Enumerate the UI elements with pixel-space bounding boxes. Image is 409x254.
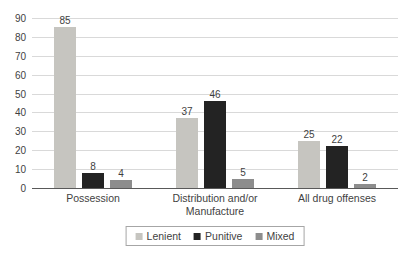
bar-value-label: 25: [303, 129, 314, 140]
bar-lenient: [298, 141, 320, 188]
y-tick-label: 40: [15, 107, 26, 118]
bar-value-label: 5: [240, 167, 246, 178]
bar-lenient: [54, 27, 76, 188]
bar-value-label: 46: [209, 89, 220, 100]
bar-with-label: 8: [82, 161, 104, 188]
bar-value-label: 85: [59, 15, 70, 26]
bar-value-label: 22: [331, 134, 342, 145]
legend-item-mixed: Mixed: [255, 230, 294, 242]
plot-area: 85843746525222: [32, 18, 398, 188]
bar-with-label: 4: [110, 168, 132, 188]
bar-with-label: 5: [232, 167, 254, 188]
bar-mixed: [354, 184, 376, 188]
bar-group: 8584: [32, 18, 154, 188]
y-tick-label: 70: [15, 50, 26, 61]
y-tick-label: 30: [15, 126, 26, 137]
bar-punitive: [204, 101, 226, 188]
bar-value-label: 2: [362, 172, 368, 183]
y-tick-label: 90: [15, 13, 26, 24]
bar-with-label: 22: [326, 134, 348, 188]
bar-with-label: 37: [176, 106, 198, 188]
x-axis-line: [32, 188, 398, 189]
y-tick-label: 20: [15, 145, 26, 156]
y-tick-label: 80: [15, 31, 26, 42]
legend-label: Mixed: [266, 230, 294, 242]
bar-group: 25222: [276, 18, 398, 188]
y-axis-tick-labels: 0102030405060708090: [0, 18, 26, 188]
bar-punitive: [326, 146, 348, 188]
x-axis-category-labels: PossessionDistribution and/or Manufactur…: [32, 192, 398, 222]
bar-group: 37465: [154, 18, 276, 188]
category-label: Distribution and/or Manufacture: [154, 192, 276, 218]
bar-lenient: [176, 118, 198, 188]
bar-punitive: [82, 173, 104, 188]
bar-value-label: 4: [118, 168, 124, 179]
legend-label: Lenient: [147, 230, 181, 242]
legend-item-lenient: Lenient: [136, 230, 181, 242]
bar-with-label: 85: [54, 15, 76, 188]
legend: LenientPunitiveMixed: [126, 226, 305, 246]
bar-value-label: 37: [181, 106, 192, 117]
grouped-bar-chart: 85843746525222 0102030405060708090 Posse…: [0, 0, 409, 254]
y-tick-label: 0: [20, 183, 26, 194]
bar-mixed: [110, 180, 132, 188]
legend-item-punitive: Punitive: [194, 230, 242, 242]
bar-value-label: 8: [90, 161, 96, 172]
y-tick-label: 60: [15, 69, 26, 80]
bar-with-label: 2: [354, 172, 376, 188]
legend-swatch: [136, 233, 143, 240]
category-label: Possession: [32, 192, 154, 205]
bar-with-label: 46: [204, 89, 226, 188]
bar-with-label: 25: [298, 129, 320, 188]
legend-swatch: [255, 233, 262, 240]
y-tick-label: 10: [15, 164, 26, 175]
y-tick-label: 50: [15, 88, 26, 99]
bar-mixed: [232, 179, 254, 188]
legend-swatch: [194, 233, 201, 240]
category-label: All drug offenses: [276, 192, 398, 205]
legend-label: Punitive: [205, 230, 242, 242]
